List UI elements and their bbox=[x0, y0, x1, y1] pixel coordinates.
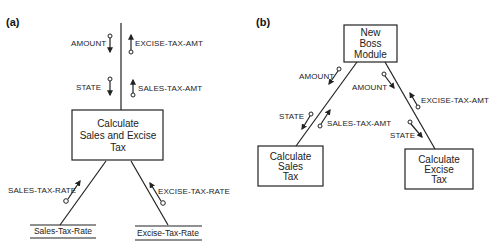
couple-sales-tax-amt-icon bbox=[131, 80, 135, 97]
panel-b: (b) New Boss Module AMOUNT STATE SALES-T… bbox=[256, 16, 489, 189]
excise-module-line-3: Tax bbox=[431, 174, 447, 185]
couple-amount-icon bbox=[108, 34, 112, 52]
couple-excise-tax-amt-label: EXCISE-TAX-AMT bbox=[135, 39, 203, 48]
couple-b-amount-sales-label: AMOUNT bbox=[299, 72, 334, 81]
panel-a: (a) AMOUNT EXCISE-TAX-AMT STATE SALES-TA… bbox=[6, 16, 230, 240]
flow-sales-tax-rate-label: SALES-TAX-RATE bbox=[8, 186, 76, 195]
panel-a-label: (a) bbox=[6, 16, 20, 28]
data-store-excise-label: Excise-Tax-Rate bbox=[137, 228, 199, 238]
module-line-1: Calculate bbox=[97, 118, 139, 129]
module-line-2: Sales and Excise bbox=[80, 130, 157, 141]
structure-chart-diagram: (a) AMOUNT EXCISE-TAX-AMT STATE SALES-TA… bbox=[0, 0, 489, 251]
couple-sales-tax-amt-label: SALES-TAX-AMT bbox=[138, 84, 202, 93]
boss-line-2: Boss bbox=[359, 38, 381, 49]
couple-b-excise-tax-amt-label: EXCISE-TAX-AMT bbox=[421, 96, 489, 105]
module-line-3: Tax bbox=[110, 142, 126, 153]
couple-b-excise-tax-amt-icon bbox=[410, 93, 420, 109]
couple-amount-label: AMOUNT bbox=[71, 39, 106, 48]
data-store-sales-label: Sales-Tax-Rate bbox=[34, 226, 92, 236]
couple-b-amount-excise-label: AMOUNT bbox=[352, 83, 387, 92]
couple-b-state-excise-label: STATE bbox=[390, 131, 415, 140]
sales-module-line-3: Tax bbox=[283, 171, 299, 182]
boss-line-1: New bbox=[360, 27, 381, 38]
couple-state-icon bbox=[108, 77, 112, 95]
couple-b-state-sales-label: STATE bbox=[279, 112, 304, 121]
data-store-excise-tax-rate: Excise-Tax-Rate bbox=[135, 226, 202, 240]
couple-b-sales-tax-amt-label: SALES-TAX-AMT bbox=[327, 119, 391, 128]
flow-excise-tax-rate-label: EXCISE-TAX-RATE bbox=[158, 187, 230, 196]
panel-b-label: (b) bbox=[256, 16, 270, 28]
couple-state-label: STATE bbox=[76, 83, 101, 92]
couple-excise-tax-amt-icon bbox=[129, 35, 133, 54]
data-store-sales-tax-rate: Sales-Tax-Rate bbox=[30, 225, 96, 238]
boss-line-3: Module bbox=[354, 49, 387, 60]
